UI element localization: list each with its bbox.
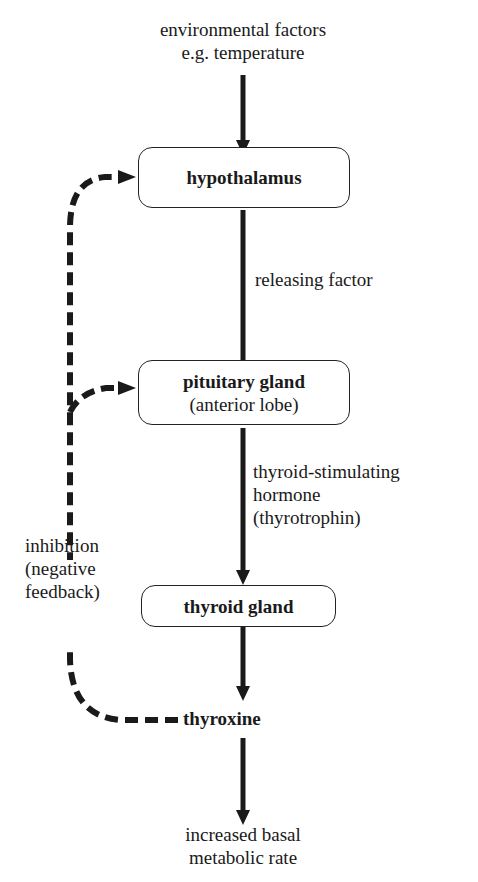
hypothalamus-node[interactable]: hypothalamus	[138, 147, 350, 208]
pituitary-node[interactable]: pituitary gland (anterior lobe)	[138, 360, 350, 425]
pituitary-sublabel: (anterior lobe)	[189, 393, 298, 416]
tsh-line-3: (thyrotrophin)	[253, 506, 400, 529]
input-label: environmental factors e.g. temperature	[133, 18, 353, 64]
tsh-label: thyroid-stimulating hormone (thyrotrophi…	[253, 460, 400, 529]
feedback-label: inhibition (negative feedback)	[25, 534, 100, 603]
feedback-line-1: inhibition	[25, 534, 100, 557]
input-line-2: e.g. temperature	[133, 41, 353, 64]
connector-layer	[0, 0, 478, 882]
thyroxine-label: thyroxine	[183, 707, 261, 730]
thyroid-label: thyroid gland	[184, 595, 294, 618]
output-line-2: metabolic rate	[133, 846, 353, 869]
pituitary-label: pituitary gland	[183, 370, 305, 393]
output-line-1: increased basal	[133, 823, 353, 846]
output-label: increased basal metabolic rate	[133, 823, 353, 869]
hypothalamus-label: hypothalamus	[186, 166, 301, 189]
feedback-line-3: feedback)	[25, 580, 100, 603]
releasing-factor-label: releasing factor	[255, 268, 373, 291]
input-line-1: environmental factors	[133, 18, 353, 41]
thyroid-node[interactable]: thyroid gland	[141, 585, 336, 627]
tsh-line-2: hormone	[253, 483, 400, 506]
tsh-line-1: thyroid-stimulating	[253, 460, 400, 483]
feedback-line-2: (negative	[25, 557, 100, 580]
